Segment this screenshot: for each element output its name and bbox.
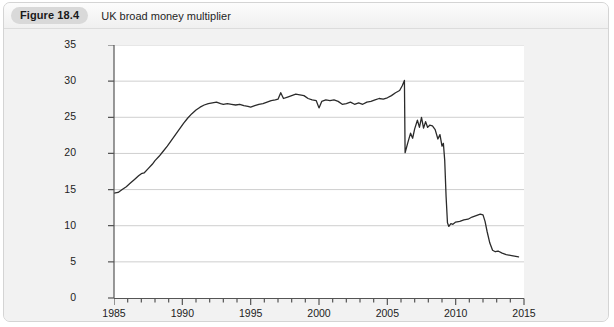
y-tick-label: 25 <box>50 110 76 122</box>
figure-number-badge: Figure 18.4 <box>11 7 88 24</box>
figure-panel: Figure 18.4 UK broad money multiplier 05… <box>3 2 609 322</box>
x-tick-label: 1995 <box>231 307 271 319</box>
y-tick-label: 35 <box>50 38 76 50</box>
x-tick-label: 2005 <box>367 307 407 319</box>
y-tick-label: 10 <box>50 219 76 231</box>
line-chart-canvas <box>114 45 524 298</box>
x-tick-label: 2010 <box>436 307 476 319</box>
x-tick-label: 1985 <box>94 307 134 319</box>
chart-body: 0510152025303519851990199520002005201020… <box>4 30 608 321</box>
y-tick-label: 5 <box>50 255 76 267</box>
data-series-line <box>114 80 519 256</box>
x-tick-label: 2015 <box>504 307 544 319</box>
y-tick-label: 15 <box>50 183 76 195</box>
y-tick-label: 20 <box>50 146 76 158</box>
y-axis <box>82 45 122 310</box>
figure-header: Figure 18.4 UK broad money multiplier <box>4 3 608 29</box>
plot-frame <box>114 45 524 298</box>
figure-title: UK broad money multiplier <box>101 10 231 22</box>
y-tick-label: 30 <box>50 74 76 86</box>
x-tick-label: 1990 <box>162 307 202 319</box>
y-tick-label: 0 <box>50 291 76 303</box>
x-tick-label: 2000 <box>299 307 339 319</box>
